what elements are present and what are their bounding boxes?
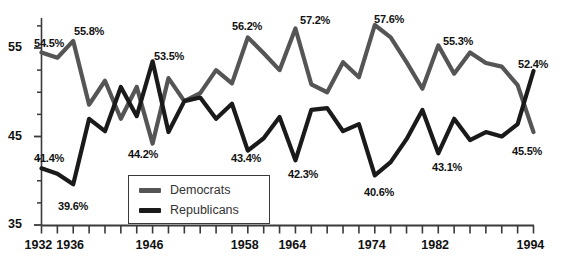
annotation-democrats-1958: 56.2%	[232, 20, 262, 32]
legend-item-democrats: Democrats	[139, 183, 230, 197]
y-tick-label-35: 35	[8, 217, 22, 231]
legend-label-democrats: Democrats	[170, 183, 230, 197]
annotation-democrats-1994: 45.5%	[512, 145, 542, 157]
annotation-democrats-1936: 55.8%	[74, 25, 104, 37]
y-axis-ticks	[34, 26, 42, 225]
x-tick-label-1964: 1964	[278, 238, 306, 252]
chart-figure: 554535 19321936194619581964197419821994 …	[0, 0, 563, 264]
x-tick-label-1958: 1958	[231, 238, 259, 252]
annotation-republicans-1994: 52.4%	[518, 58, 548, 70]
line-chart-canvas	[0, 0, 563, 264]
x-tick-label-1994: 1994	[517, 238, 545, 252]
annotation-democrats-1946: 44.2%	[128, 148, 158, 160]
legend-swatch-republicans	[139, 208, 161, 213]
annotation-republicans-1958: 43.4%	[231, 152, 261, 164]
annotation-republicans-1932: 41.4%	[34, 152, 64, 164]
annotation-democrats-1964: 57.2%	[300, 14, 330, 26]
annotation-republicans-1936: 39.6%	[58, 200, 88, 212]
x-tick-label-1974: 1974	[358, 238, 386, 252]
annotation-democrats-1982: 55.3%	[443, 35, 473, 47]
x-axis-ticks	[42, 226, 534, 234]
annotation-republicans-1982: 43.1%	[432, 161, 462, 173]
x-tick-label-1932: 1932	[25, 238, 53, 252]
y-tick-label-45: 45	[8, 129, 22, 143]
chart-legend: Democrats Republicans	[128, 175, 270, 224]
annotation-democrats-1974: 57.6%	[374, 13, 404, 25]
x-tick-label-1982: 1982	[421, 238, 449, 252]
x-tick-label-1936: 1936	[56, 238, 84, 252]
annotation-republicans-1974: 40.6%	[364, 186, 394, 198]
x-tick-label-1946: 1946	[136, 238, 164, 252]
annotation-democrats-1932: 54.5%	[34, 37, 64, 49]
legend-label-republicans: Republicans	[170, 203, 239, 217]
annotation-republicans-1946: 53.5%	[154, 50, 184, 62]
legend-item-republicans: Republicans	[139, 203, 239, 217]
legend-swatch-democrats	[139, 188, 161, 193]
y-tick-label-55: 55	[8, 40, 22, 54]
annotation-republicans-1964: 42.3%	[288, 168, 318, 180]
